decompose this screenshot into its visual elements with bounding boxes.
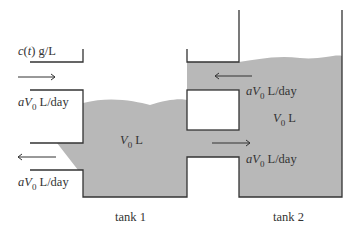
inflow-rate-label: aV0 L/day <box>18 95 69 112</box>
tank2-volume-label: V0 L <box>273 111 296 128</box>
upper-pipe-rate-label: aV0 L/day <box>246 84 297 101</box>
tank2-label: tank 2 <box>273 210 304 225</box>
tank-drawing <box>0 0 358 233</box>
outflow-rate-label: aV0 L/day <box>18 175 69 192</box>
tank1-volume-label: V0 L <box>120 133 143 150</box>
two-tank-diagram: c(t) g/L aV0 L/day aV0 L/day V0 L aV0 L/… <box>0 0 358 233</box>
tank1-label: tank 1 <box>115 210 146 225</box>
lower-pipe-rate-label: aV0 L/day <box>246 152 297 169</box>
inlet-concentration-label: c(t) g/L <box>18 44 56 59</box>
